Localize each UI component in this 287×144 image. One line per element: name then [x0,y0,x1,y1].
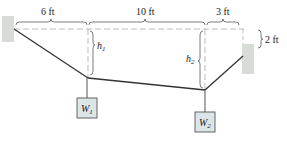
h2-brace [198,31,203,88]
h1-label: h1 [97,40,106,53]
cable-segment-left [14,29,88,78]
cable-diagram: 6 ft 10 ft 3 ft h1 h2 2 ft W1 W2 [0,0,287,144]
dimension-line-6ft [16,19,87,25]
span-middle-label: 10 ft [136,6,155,17]
cable-segment-middle [88,78,205,90]
left-wall-support [2,16,14,42]
dimension-line-3ft [207,19,239,25]
h2-label: h2 [186,53,195,66]
dimension-line-10ft [89,19,205,25]
span-left-label: 6 ft [41,6,55,17]
cable-segment-right [205,56,243,90]
right-wall-support [242,44,254,74]
drop-2ft-label: 2 ft [265,34,279,45]
h1-brace [90,31,95,75]
drop-2ft-brace [258,30,263,48]
span-right-label: 3 ft [216,6,230,17]
